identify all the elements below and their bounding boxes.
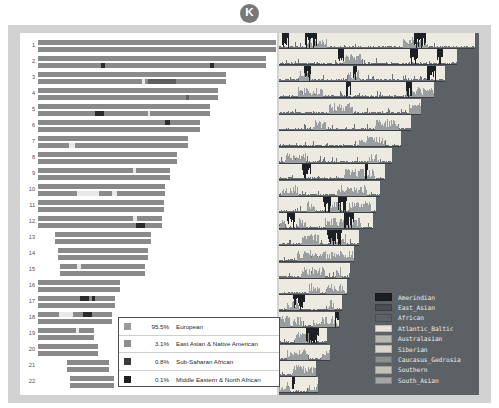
chromosome-number-label: 22 xyxy=(20,378,35,385)
probability-spike xyxy=(359,78,360,81)
ancestry-percentage-value: 3.1% xyxy=(135,340,169,347)
chromosome-number-label: 21 xyxy=(20,362,35,369)
haplotype-bar xyxy=(38,184,165,190)
haplotype-bar xyxy=(67,360,109,366)
probability-spike xyxy=(379,194,380,195)
ancestry-segment xyxy=(133,168,136,174)
chromosome-number-label: 10 xyxy=(20,186,35,193)
haplotype-bar xyxy=(38,79,226,85)
chromosome-row: 13 xyxy=(20,231,277,246)
population-name-label: Australasian xyxy=(398,335,442,342)
ancestry-population-label: East Asian & Native American xyxy=(176,340,258,347)
chromosome-number-label: 4 xyxy=(20,90,35,97)
chromosome-number-label: 5 xyxy=(20,106,35,113)
population-legend-item[interactable]: Australasian xyxy=(375,334,475,344)
haplotype-bar xyxy=(60,271,145,277)
probability-spike xyxy=(350,82,351,95)
probability-spike xyxy=(307,354,308,360)
probability-spike xyxy=(378,160,379,163)
probability-spike xyxy=(297,187,298,196)
haplotype-bar xyxy=(38,328,94,334)
chromosome-row: 6 xyxy=(20,119,277,134)
population-legend-item[interactable]: African xyxy=(375,313,475,323)
probability-spike xyxy=(289,387,290,393)
probability-spike xyxy=(410,128,411,130)
probability-row xyxy=(279,230,359,246)
probability-spike xyxy=(372,228,373,229)
ancestry-segment xyxy=(77,191,99,197)
population-legend-item[interactable]: South_Asian xyxy=(375,375,475,385)
probability-row xyxy=(279,328,327,344)
population-color-swatch xyxy=(375,335,392,343)
chromosome-number-label: 11 xyxy=(20,202,35,209)
haplotype-bar xyxy=(38,312,112,318)
haplotype-bar xyxy=(38,143,188,149)
population-name-label: East_Asian xyxy=(398,304,435,311)
probability-spike xyxy=(317,384,318,392)
probability-row xyxy=(279,197,376,213)
haplotype-bar xyxy=(58,255,148,261)
haplotype-bar xyxy=(38,175,170,181)
population-color-legend: AmerindianEast_AsianAfricanAtlantic_Balt… xyxy=(375,292,475,390)
chromosome-row: 14 xyxy=(20,247,277,262)
panel-label-badge: K xyxy=(240,4,259,23)
probability-spike xyxy=(301,321,302,327)
haplotype-bar xyxy=(67,367,109,373)
ancestry-population-label: Sub-Saharan African xyxy=(176,358,233,365)
chromosome-row: 3 xyxy=(20,71,277,86)
population-legend-item[interactable]: Siberian xyxy=(375,344,475,354)
probability-spike xyxy=(339,257,340,262)
probability-spike xyxy=(444,80,445,81)
probability-spike xyxy=(305,222,306,228)
chromosome-number-label: 2 xyxy=(20,58,35,65)
ancestry-percentage-value: 0.1% xyxy=(135,376,169,383)
ancestry-segment xyxy=(136,223,145,229)
haplotype-bar xyxy=(38,120,200,126)
haplotype-bar xyxy=(38,351,98,357)
haplotype-bar xyxy=(38,104,210,110)
probability-spike xyxy=(310,164,311,174)
haplotype-bar xyxy=(38,335,94,341)
probability-spike xyxy=(333,303,334,310)
probability-spike xyxy=(349,273,350,277)
probability-spike xyxy=(400,145,401,147)
probability-row xyxy=(279,263,350,279)
population-legend-item[interactable]: Southern xyxy=(375,365,475,375)
probability-row xyxy=(279,345,330,361)
chromosome-number-label: 16 xyxy=(20,282,35,289)
probability-spike xyxy=(324,270,325,277)
chromosome-number-label: 19 xyxy=(20,330,35,337)
haplotype-bar xyxy=(38,111,210,117)
chromosome-row: 15 xyxy=(20,263,277,278)
probability-spike xyxy=(294,377,295,383)
population-legend-item[interactable]: East_Asian xyxy=(375,302,475,312)
probability-spike xyxy=(338,326,339,327)
probability-spike xyxy=(322,90,323,97)
probability-spike xyxy=(417,49,418,58)
ancestry-segment xyxy=(210,63,214,69)
population-legend-item[interactable]: Atlantic_Baltic xyxy=(375,323,475,333)
chromosome-row: 7 xyxy=(20,135,277,150)
population-color-swatch xyxy=(375,314,392,322)
probability-spike xyxy=(352,107,353,113)
probability-spike xyxy=(288,33,289,49)
probability-spike xyxy=(338,312,339,320)
haplotype-bar xyxy=(60,264,145,270)
haplotype-bar xyxy=(58,248,148,254)
probability-row xyxy=(279,131,401,147)
haplotype-bar xyxy=(38,56,266,62)
population-legend-item[interactable]: Amerindian xyxy=(375,292,475,302)
ancestry-legend-item[interactable]: 0.8%Sub-Saharan African xyxy=(119,353,279,371)
ancestry-legend-item[interactable]: 95.5%European xyxy=(119,318,279,336)
ancestry-legend-item[interactable]: 3.1%East Asian & Native American xyxy=(119,336,279,354)
probability-spike xyxy=(310,66,311,74)
ancestry-legend-item[interactable]: 0.1%Middle Eastern & North African xyxy=(119,371,279,389)
probability-row xyxy=(279,66,445,82)
probability-row xyxy=(279,377,318,393)
population-legend-item[interactable]: Caucasus_Gedrosia xyxy=(375,354,475,364)
probability-spike xyxy=(344,291,345,294)
probability-spike xyxy=(427,44,428,48)
haplotype-bar xyxy=(38,88,218,94)
probability-spike xyxy=(326,39,327,48)
probability-spike xyxy=(325,122,326,130)
